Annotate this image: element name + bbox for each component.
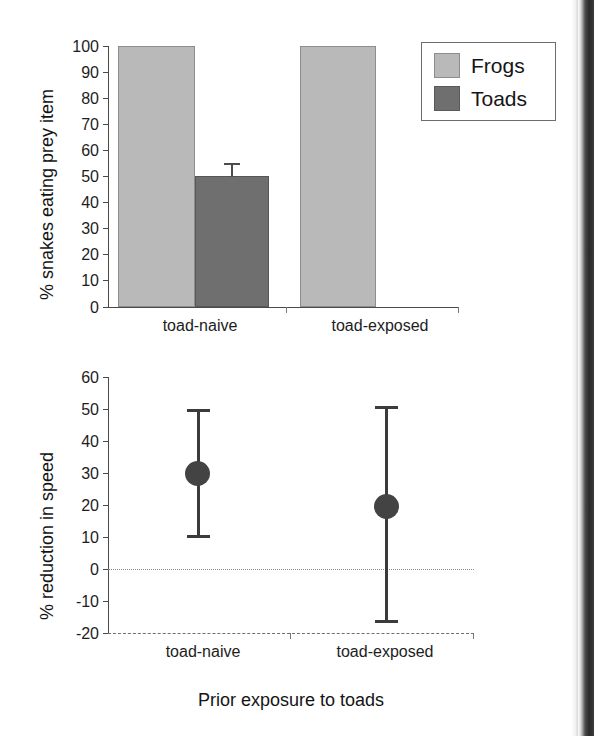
panel-b-ytick-20: 20 (50, 498, 99, 514)
panel-b-x-axis-title: Prior exposure to toads (108, 691, 474, 709)
panel-b-xtick-end (473, 633, 474, 639)
panel-b-zero-reference-line (108, 569, 474, 570)
data-point-toad-exposed (374, 494, 399, 519)
ci-cap-upper-toad-naive (187, 409, 210, 412)
scan-edge-artifact-inner (571, 0, 578, 736)
panel-b-xtick-1 (290, 633, 291, 639)
panel-b-ytick-30: 30 (50, 466, 99, 482)
panel-b-ytick-50: 50 (50, 402, 99, 418)
panel-b-ytick-60: 60 (50, 370, 99, 386)
panel-b-category-toad-exposed: toad-exposed (295, 644, 475, 660)
ci-cap-upper-toad-exposed (375, 406, 398, 409)
panel-b-x-axis (108, 633, 474, 634)
ci-cap-lower-toad-naive (187, 535, 210, 538)
panel-b-ytick-neg10: -10 (50, 594, 99, 610)
ci-cap-lower-toad-exposed (375, 620, 398, 623)
panel-b-ytick-0: 0 (50, 562, 99, 578)
panel-b-ytick-10: 10 (50, 530, 99, 546)
panel-b-ytick-40: 40 (50, 434, 99, 450)
panel-b-y-axis (108, 377, 109, 634)
figure-canvas: % snakes eating prey item 100 90 80 70 6… (0, 0, 594, 736)
panel-b-category-toad-naive: toad-naive (118, 644, 288, 660)
data-point-toad-naive (185, 461, 210, 486)
scan-edge-artifact (578, 0, 594, 736)
panel-point-chart: % reduction in speed 60 50 40 30 20 10 0… (0, 0, 594, 736)
panel-b-ytick-neg20: -20 (50, 626, 99, 642)
